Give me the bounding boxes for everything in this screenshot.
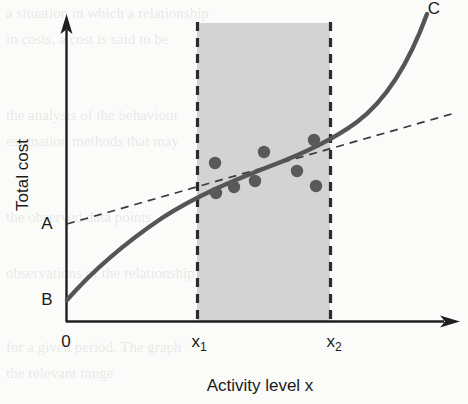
- label-origin: 0: [61, 333, 70, 350]
- data-point: [258, 146, 270, 158]
- x-axis-title: Activity level x: [207, 377, 314, 394]
- x2-base: x: [326, 332, 335, 351]
- data-point: [249, 175, 261, 187]
- label-point-a: A: [41, 215, 52, 232]
- data-point: [228, 181, 240, 193]
- x1-subscript: 1: [200, 340, 207, 354]
- data-point: [310, 180, 322, 192]
- x-axis-tick-label-x1: x1: [191, 333, 206, 353]
- x-axis-tick-label-x2: x2: [326, 333, 341, 353]
- x1-base: x: [191, 332, 200, 351]
- cost-behaviour-chart-figure: a situation in which a relationship in c…: [0, 0, 468, 404]
- label-point-c: C: [428, 0, 440, 17]
- data-point: [209, 157, 221, 169]
- data-point: [210, 187, 222, 199]
- y-axis-title: Total cost: [14, 139, 31, 211]
- x2-subscript: 2: [335, 340, 342, 354]
- label-point-b: B: [41, 291, 52, 308]
- data-point: [308, 134, 320, 146]
- relevant-range-shaded-band: [197, 23, 330, 322]
- data-point: [291, 165, 303, 177]
